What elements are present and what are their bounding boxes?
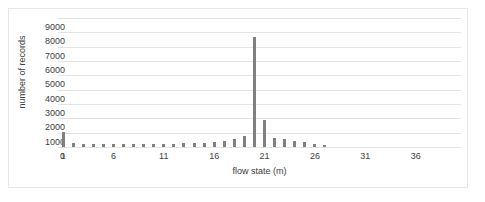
bar: [323, 145, 326, 147]
bar: [313, 144, 316, 147]
bar: [193, 143, 196, 147]
gridline: [58, 147, 461, 148]
x-axis-title: flow state (m): [58, 166, 461, 176]
bar: [253, 37, 256, 147]
bar: [82, 144, 85, 147]
gridline: [58, 32, 461, 33]
bar: [102, 144, 105, 147]
gridline: [58, 90, 461, 91]
bar: [203, 143, 206, 147]
bar: [122, 144, 125, 147]
bar: [233, 139, 236, 147]
bar: [293, 141, 296, 147]
bar: [213, 142, 216, 147]
x-axis-tick-labels: 16111621263136: [58, 151, 461, 165]
bar: [303, 142, 306, 147]
x-axis-tick-label: 11: [149, 151, 179, 162]
gridline: [58, 61, 461, 62]
bar: [263, 120, 266, 147]
plot-area: [58, 18, 461, 148]
x-axis-tick-label: 6: [98, 151, 128, 162]
gridline: [58, 47, 461, 48]
gridline: [58, 75, 461, 76]
bar: [273, 138, 276, 147]
gridline: [58, 18, 461, 19]
gridline: [58, 104, 461, 105]
bar: [152, 144, 155, 147]
chart-frame: number of records 0100020003000400050006…: [8, 8, 468, 188]
bar: [92, 144, 95, 147]
bar: [72, 143, 75, 147]
bar: [182, 143, 185, 147]
x-axis-tick-label: 21: [250, 151, 280, 162]
x-axis-tick-label: 36: [401, 151, 431, 162]
gridline: [58, 118, 461, 119]
bar: [243, 136, 246, 147]
x-axis-tick-label: 31: [350, 151, 380, 162]
x-axis-tick-label: 16: [199, 151, 229, 162]
bar: [223, 141, 226, 147]
x-axis-tick-label: 26: [300, 151, 330, 162]
bar: [142, 144, 145, 147]
y-axis-title: number of records: [17, 12, 27, 132]
bar: [62, 132, 65, 147]
x-axis-tick-label: 1: [48, 151, 78, 162]
gridline: [58, 133, 461, 134]
bar: [132, 144, 135, 147]
bar: [172, 144, 175, 147]
bar: [283, 139, 286, 147]
bar: [112, 144, 115, 147]
bar: [162, 144, 165, 147]
